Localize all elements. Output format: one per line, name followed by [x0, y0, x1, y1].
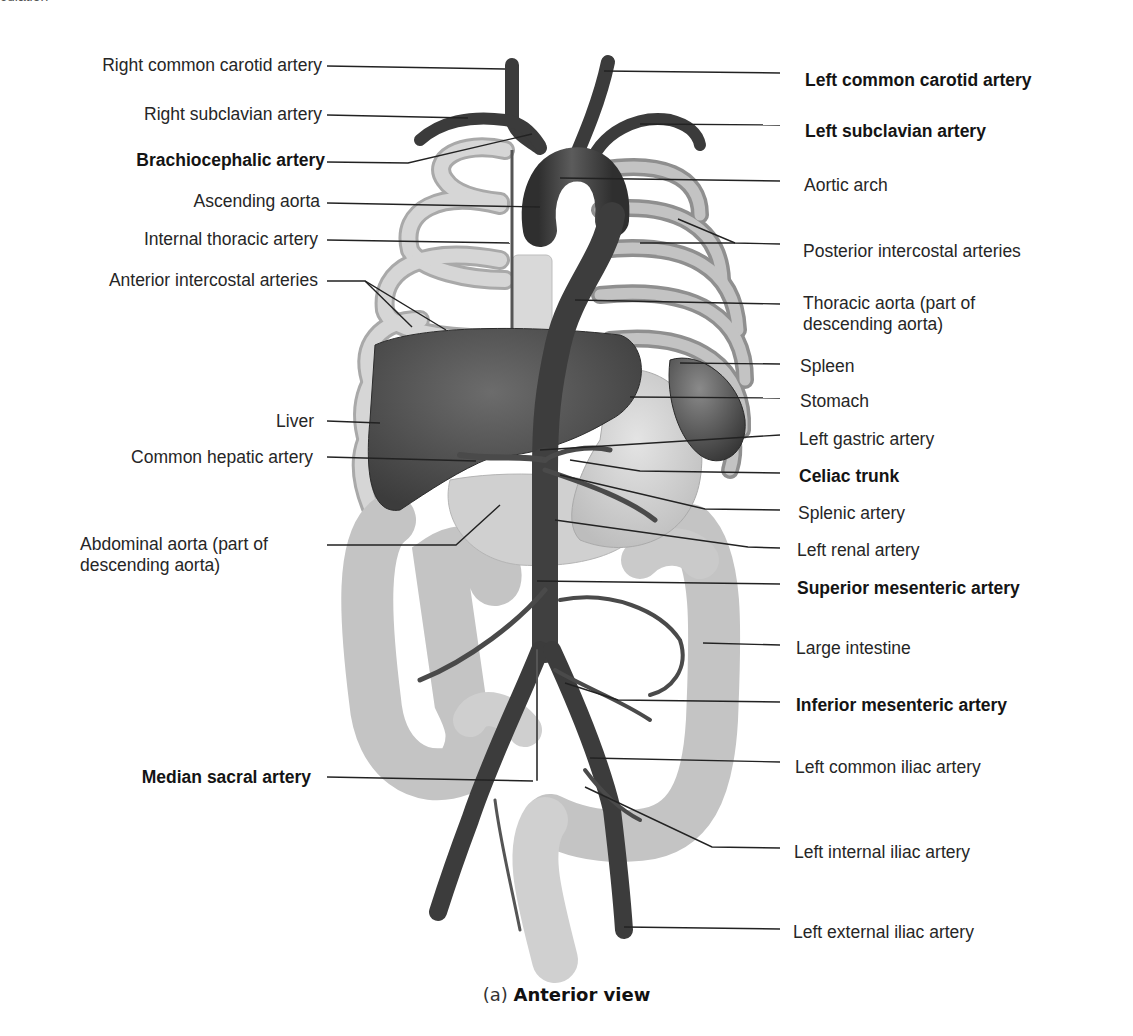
- label-left-subclavian-artery: Left subclavian artery: [805, 121, 986, 142]
- label-left-common-iliac-artery: Left common iliac artery: [795, 757, 981, 778]
- caption-prefix: (a): [483, 984, 508, 1005]
- label-inferior-mesenteric-artery: Inferior mesenteric artery: [796, 695, 1007, 716]
- label-liver: Liver: [276, 411, 314, 432]
- label-thoracic-aorta: Thoracic aorta (part of descending aorta…: [803, 293, 975, 335]
- label-ascending-aorta: Ascending aorta: [194, 191, 320, 212]
- label-abdominal-aorta-line2: descending aorta): [80, 555, 268, 576]
- label-aortic-arch: Aortic arch: [804, 175, 888, 196]
- label-left-gastric-artery: Left gastric artery: [799, 429, 934, 450]
- label-splenic-artery: Splenic artery: [798, 503, 905, 524]
- anatomy-figure: culation: [0, 0, 1133, 1036]
- label-right-subclavian-artery: Right subclavian artery: [144, 104, 322, 125]
- label-thoracic-aorta-line1: Thoracic aorta (part of: [803, 293, 975, 314]
- label-left-external-iliac-artery: Left external iliac artery: [793, 922, 974, 943]
- caption-title: Anterior view: [513, 984, 650, 1005]
- label-internal-thoracic-artery: Internal thoracic artery: [144, 229, 318, 250]
- label-celiac-trunk: Celiac trunk: [799, 466, 899, 487]
- label-superior-mesenteric-artery: Superior mesenteric artery: [797, 578, 1020, 599]
- label-spleen: Spleen: [800, 356, 855, 377]
- label-left-internal-iliac-artery: Left internal iliac artery: [794, 842, 970, 863]
- figure-caption: (a) Anterior view: [0, 984, 1133, 1005]
- label-median-sacral-artery: Median sacral artery: [142, 767, 311, 788]
- label-common-hepatic-artery: Common hepatic artery: [131, 447, 313, 468]
- label-anterior-intercostal-arteries: Anterior intercostal arteries: [109, 270, 318, 291]
- label-stomach: Stomach: [800, 391, 869, 412]
- cropped-heading-fragment: culation: [0, 0, 48, 4]
- label-thoracic-aorta-line2: descending aorta): [803, 314, 975, 335]
- label-posterior-intercostal-arteries: Posterior intercostal arteries: [803, 241, 1021, 262]
- label-abdominal-aorta-line1: Abdominal aorta (part of: [80, 534, 268, 555]
- label-large-intestine: Large intestine: [796, 638, 911, 659]
- label-abdominal-aorta: Abdominal aorta (part of descending aort…: [80, 534, 268, 576]
- label-left-common-carotid-artery: Left common carotid artery: [805, 70, 1032, 91]
- label-right-common-carotid-artery: Right common carotid artery: [102, 55, 322, 76]
- label-left-renal-artery: Left renal artery: [797, 540, 920, 561]
- label-brachiocephalic-artery: Brachiocephalic artery: [136, 150, 325, 171]
